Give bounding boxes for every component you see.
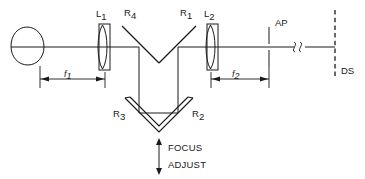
mirror-r4-face [122, 26, 159, 63]
upper-v-mirror-assembly [122, 26, 196, 63]
break-squiggle-right [299, 42, 301, 52]
f1-label: f1 [64, 69, 72, 81]
mirror-r1-label: R1 [180, 7, 192, 21]
source-circle [11, 27, 44, 65]
lower-v-cap-left [125, 97, 130, 98]
vertical-beam-group [139, 47, 178, 113]
light-source [11, 27, 44, 65]
dimension-f1 [40, 66, 105, 88]
f1-arrowhead-left [41, 77, 49, 82]
axis-break-icon [293, 42, 301, 52]
focus-adjust-line1: FOCUS [168, 142, 202, 153]
focus-adjust-arrowhead-up [156, 138, 162, 145]
optical-diagram-figure: L1 L2 R4 R1 R3 [0, 0, 365, 179]
mirror-r3-label: R3 [113, 108, 125, 122]
lens1-label: L1 [96, 8, 107, 22]
f2-arrowhead-left [212, 77, 220, 82]
focus-adjust-arrowhead-down [156, 168, 162, 175]
f2-label: f2 [232, 69, 240, 81]
focus-adjust-arrow [156, 138, 162, 175]
f1-arrowhead-right [96, 77, 104, 82]
dimension-f2 [211, 67, 269, 88]
lower-v-outer-edge [125, 98, 193, 132]
mirror-r2-label: R2 [192, 108, 204, 122]
f2-arrowhead-right [260, 77, 268, 82]
lens2-label: L2 [204, 8, 215, 22]
focus-adjust-line2: ADJUST [168, 159, 206, 170]
detector-screen-label: DS [341, 65, 354, 76]
lower-v-mirror-assembly [125, 97, 193, 132]
lower-v-cap-right [188, 97, 193, 98]
mirror-r4-label: R4 [124, 7, 136, 21]
optical-system-schematic: L1 L2 R4 R1 R3 [0, 0, 365, 179]
aperture-label: AP [275, 17, 288, 28]
